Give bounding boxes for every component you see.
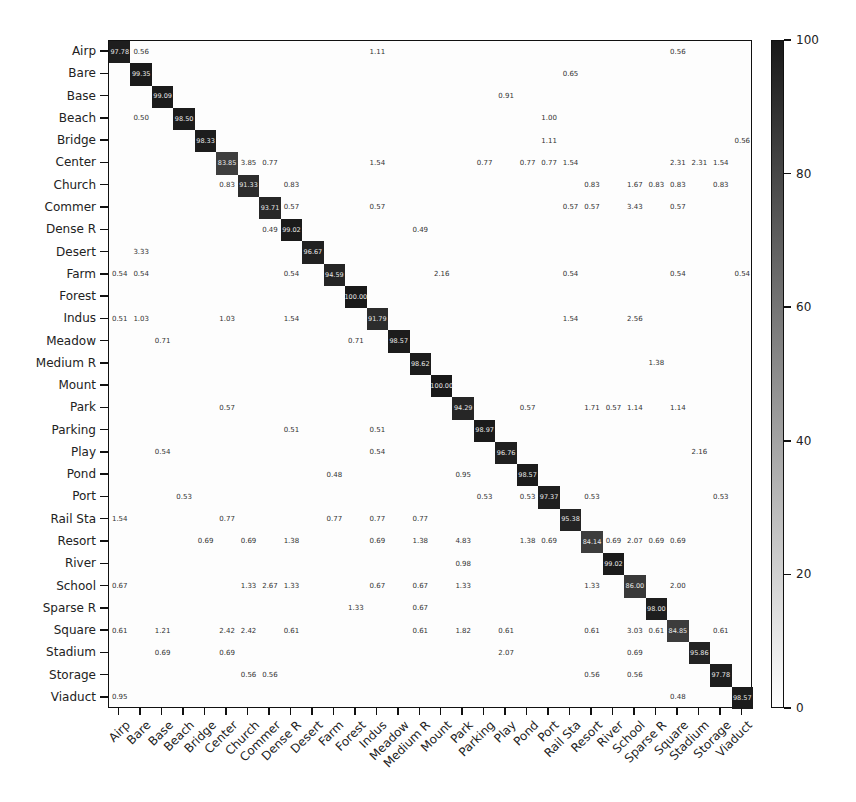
x-axis-tick (655, 708, 657, 715)
matrix-cell: 0.69 (195, 531, 216, 553)
colorbar-tick (784, 306, 791, 308)
matrix-cell: 0.61 (109, 620, 130, 642)
matrix-cell: 0.77 (474, 152, 495, 174)
matrix-cell: 0.49 (410, 219, 431, 241)
matrix-cell: 0.54 (367, 442, 388, 464)
matrix-cell: 0.50 (130, 108, 151, 130)
matrix-cell: 0.56 (238, 664, 259, 686)
matrix-cell: 1.33 (238, 575, 259, 597)
matrix-cell: 1.38 (281, 531, 302, 553)
matrix-cell: 0.54 (281, 264, 302, 286)
matrix-cell: 0.54 (667, 264, 688, 286)
y-axis-tick (100, 318, 108, 320)
y-axis-tick (100, 295, 108, 297)
matrix-cell-diagonal: 93.71 (259, 197, 280, 219)
matrix-cell: 0.69 (667, 531, 688, 553)
matrix-cell: 2.16 (689, 442, 710, 464)
matrix-cell: 1.11 (367, 41, 388, 63)
colorbar-tick-label: 0 (796, 701, 804, 715)
y-axis-tick (100, 95, 108, 97)
matrix-cell: 2.00 (667, 575, 688, 597)
matrix-cell-diagonal: 97.37 (538, 486, 559, 508)
x-axis-tick (376, 708, 378, 715)
y-axis-label: Meadow (46, 334, 96, 348)
matrix-cell: 0.69 (646, 531, 667, 553)
y-axis-label: Bare (68, 66, 96, 80)
x-axis-tick (526, 708, 528, 715)
y-axis-label: Forest (59, 289, 96, 303)
colorbar (771, 40, 784, 708)
matrix-cell: 0.54 (560, 264, 581, 286)
matrix-cell: 0.49 (259, 219, 280, 241)
matrix-cell: 0.91 (495, 86, 516, 108)
y-axis-tick (100, 563, 108, 565)
matrix-cell: 1.54 (367, 152, 388, 174)
matrix-cell: 0.54 (109, 264, 130, 286)
matrix-cell-diagonal: 97.78 (109, 41, 130, 63)
colorbar-tick (784, 574, 791, 576)
matrix-cell: 1.33 (452, 575, 473, 597)
matrix-cell: 2.42 (216, 620, 237, 642)
y-axis-tick (100, 340, 108, 342)
y-axis-tick (100, 273, 108, 275)
matrix-cell: 0.77 (367, 509, 388, 531)
x-axis-tick (483, 708, 485, 715)
y-axis-tick (100, 652, 108, 654)
matrix-cell: 0.95 (109, 687, 130, 709)
y-axis-label: Indus (63, 311, 96, 325)
x-axis-tick (504, 708, 506, 715)
x-axis-tick (225, 708, 227, 715)
matrix-cell: 0.77 (324, 509, 345, 531)
x-axis-tick (741, 708, 743, 715)
matrix-cell: 0.57 (667, 197, 688, 219)
matrix-cell: 1.38 (646, 353, 667, 375)
y-axis-label: Parking (52, 423, 97, 437)
matrix-cell: 1.21 (152, 620, 173, 642)
matrix-cell: 1.33 (345, 598, 366, 620)
matrix-cell: 0.67 (109, 575, 130, 597)
matrix-cell: 0.56 (732, 130, 753, 152)
matrix-cell: 0.71 (152, 330, 173, 352)
matrix-cell: 0.56 (130, 41, 151, 63)
x-axis-tick (204, 708, 206, 715)
matrix-cell: 0.77 (216, 509, 237, 531)
matrix-cell: 0.69 (624, 642, 645, 664)
matrix-cell: 2.07 (624, 531, 645, 553)
colorbar-tick-label: 80 (796, 167, 811, 181)
x-axis-tick (633, 708, 635, 715)
y-axis-label: Park (70, 400, 96, 414)
matrix-cell: 0.53 (581, 486, 602, 508)
y-axis-tick (100, 407, 108, 409)
x-axis-tick (569, 708, 571, 715)
matrix-cell-diagonal: 97.78 (710, 664, 731, 686)
confusion-matrix-plot: 97.7899.3599.0998.5098.3383.8591.3393.71… (108, 40, 752, 708)
matrix-cell-diagonal: 98.00 (646, 598, 667, 620)
y-axis-label: Resort (58, 534, 96, 548)
matrix-cell: 0.67 (367, 575, 388, 597)
matrix-cell-diagonal: 94.29 (452, 397, 473, 419)
y-axis-tick (100, 473, 108, 475)
colorbar-tick-label: 60 (796, 300, 811, 314)
matrix-cell: 0.69 (603, 531, 624, 553)
matrix-cell: 0.83 (710, 175, 731, 197)
matrix-cell: 0.53 (173, 486, 194, 508)
y-axis-label: Play (71, 445, 96, 459)
x-axis-tick (333, 708, 335, 715)
y-axis-label: Bridge (57, 133, 96, 147)
y-axis-label: Rail Sta (50, 512, 96, 526)
matrix-cell: 0.61 (410, 620, 431, 642)
matrix-cell-diagonal: 84.85 (667, 620, 688, 642)
x-axis-tick (419, 708, 421, 715)
y-axis-tick (100, 206, 108, 208)
matrix-cell: 2.31 (689, 152, 710, 174)
matrix-cell: 0.53 (517, 486, 538, 508)
matrix-cell: 0.69 (238, 531, 259, 553)
x-axis-tick (182, 708, 184, 715)
matrix-cell: 0.69 (216, 642, 237, 664)
y-axis-label: Base (67, 89, 96, 103)
colorbar-tick (784, 707, 791, 709)
x-axis-tick (247, 708, 249, 715)
matrix-cell-diagonal: 98.57 (388, 330, 409, 352)
x-axis-tick (354, 708, 356, 715)
matrix-cell: 3.03 (624, 620, 645, 642)
